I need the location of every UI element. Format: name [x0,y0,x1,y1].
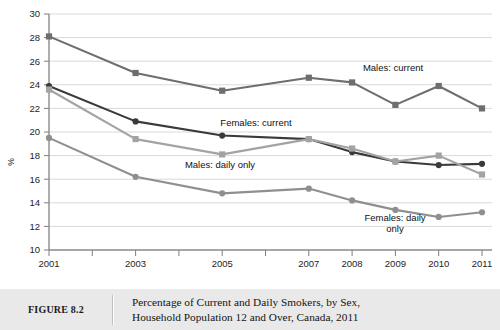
figure-caption-bar: FIGURE 8.2 Percentage of Current and Dai… [0,289,500,330]
figure-number: FIGURE 8.2 [0,304,112,315]
data-point-females-daily-only-2011 [479,209,485,215]
y-tick-label-20: 20 [29,126,40,137]
data-point-females-daily-only-2001 [46,135,52,141]
data-point-females-current-2003 [133,118,139,124]
data-point-females-daily-only-2008 [349,197,355,203]
x-tick-label-2001: 2001 [38,258,59,269]
series-line-females-daily-only [49,138,482,217]
data-point-males-current-2001 [46,33,52,39]
data-point-males-daily-only-2003 [133,136,139,142]
y-tick-label-14: 14 [29,197,40,208]
data-point-males-daily-only-2008 [349,145,355,151]
x-tick-label-2008: 2008 [342,258,363,269]
data-point-males-daily-only-2011 [479,171,485,177]
x-tick-label-2003: 2003 [125,258,146,269]
data-point-males-current-2005 [219,88,225,94]
data-point-females-current-2011 [479,161,485,167]
y-tick-label-28: 28 [29,32,40,43]
figure-8-2: 1012141618202224262830 20012003200520072… [0,0,500,330]
x-tick-label-2011: 2011 [472,258,492,269]
caption-line-1: Percentage of Current and Daily Smokers,… [132,295,486,310]
data-point-males-current-2003 [133,70,139,76]
y-tick-label-26: 26 [29,56,40,67]
data-point-males-current-2011 [479,105,485,111]
data-point-females-daily-only-2010 [436,214,442,220]
data-point-males-daily-only-2007 [306,136,312,142]
x-tick-label-2005: 2005 [212,258,233,269]
tick-marks [49,250,482,256]
series-label-females-current: Females: current [220,117,292,128]
y-axis-tick-labels: 1012141618202224262830 [29,8,40,255]
caption-line-2: Household Population 12 and Over, Canada… [132,310,486,325]
series-label-males-daily-only: Males: daily only [185,159,255,170]
data-point-males-daily-only-2009 [392,158,398,164]
series-label-females-daily-only: Females: daily [364,212,425,223]
x-axis-tick-labels: 20012003200520072008200920102011 [38,258,492,269]
data-point-males-daily-only-2010 [436,153,442,159]
series-label-males-current: Males: current [363,62,424,73]
x-tick-label-2009: 2009 [385,258,406,269]
data-point-females-current-2005 [219,132,225,138]
data-point-males-daily-only-2001 [46,86,52,92]
y-tick-label-24: 24 [29,79,40,90]
data-point-males-current-2007 [306,75,312,81]
y-tick-label-30: 30 [29,8,40,19]
data-point-males-daily-only-2005 [219,151,225,157]
y-tick-label-10: 10 [29,244,40,255]
data-point-males-current-2008 [349,79,355,85]
data-point-females-daily-only-2003 [133,174,139,180]
x-tick-label-2007: 2007 [298,258,319,269]
line-chart: 1012141618202224262830 20012003200520072… [0,0,500,283]
data-point-females-daily-only-2007 [306,186,312,192]
x-tick-label-2010: 2010 [428,258,449,269]
y-tick-label-12: 12 [29,221,40,232]
data-point-females-daily-only-2005 [219,190,225,196]
series-label-females-daily-only-line2: only [386,223,404,234]
data-point-females-current-2010 [436,162,442,168]
data-point-males-current-2009 [392,102,398,108]
figure-caption-text: Percentage of Current and Daily Smokers,… [114,295,500,324]
data-point-males-current-2010 [436,83,442,89]
y-tick-label-22: 22 [29,103,40,114]
chart-canvas: 1012141618202224262830 20012003200520072… [0,0,500,283]
y-tick-label-16: 16 [29,174,40,185]
y-tick-label-18: 18 [29,150,40,161]
y-axis-title: % [6,158,16,166]
